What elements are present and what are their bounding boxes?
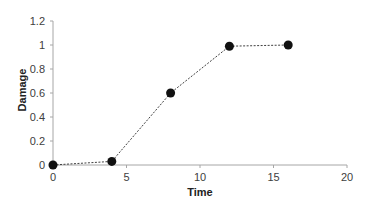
y-tick-label: 0.4 [30,111,45,123]
y-axis-title: Damage [16,69,28,112]
data-point-marker [166,89,175,98]
x-axis-title: Time [187,186,212,198]
line-chart: 00.20.40.60.811.2 05101520 Time Damage [0,0,372,210]
y-tick-label: 0.2 [30,135,45,147]
y-tick-label: 1 [39,39,45,51]
data-series [49,41,293,170]
x-tick-label: 10 [194,171,206,183]
x-tick-label: 15 [267,171,279,183]
series-line [53,45,288,165]
y-tick-label: 0 [39,159,45,171]
y-tick-label: 0.8 [30,63,45,75]
data-point-marker [284,41,293,50]
x-axis-ticks: 05101520 [50,165,353,183]
x-tick-label: 5 [123,171,129,183]
axes [53,21,347,165]
data-point-marker [49,161,58,170]
y-tick-label: 0.6 [30,87,45,99]
x-tick-label: 0 [50,171,56,183]
data-point-marker [225,42,234,51]
x-tick-label: 20 [341,171,353,183]
y-axis-ticks: 00.20.40.60.811.2 [30,15,53,171]
data-point-marker [107,157,116,166]
y-tick-label: 1.2 [30,15,45,27]
